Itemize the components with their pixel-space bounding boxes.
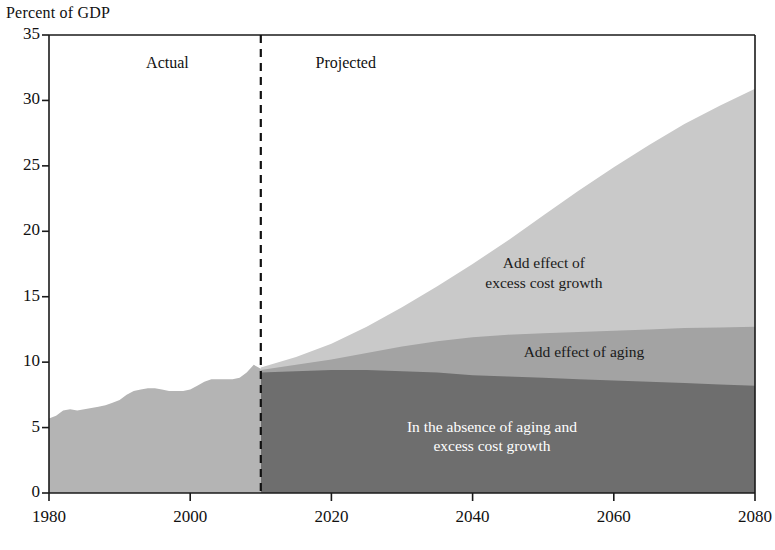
area-historical [49, 365, 261, 493]
y-axis-tick-label: 35 [2, 24, 40, 44]
x-axis-tick-label: 2020 [291, 507, 371, 527]
x-axis-tick-label: 2040 [433, 507, 513, 527]
annotation-line: excess cost growth [485, 273, 602, 292]
period-label-projected: Projected [316, 54, 376, 72]
annotation-1: Add effect of aging [524, 342, 645, 361]
y-axis-tick-label: 25 [2, 155, 40, 175]
annotation-line: excess cost growth [407, 436, 577, 455]
annotation-0: Add effect ofexcess cost growth [485, 253, 602, 292]
area-series-group [49, 89, 755, 493]
x-axis-tick-label: 1980 [9, 507, 89, 527]
x-axis-tick-label: 2000 [150, 507, 230, 527]
y-axis-tick-label: 20 [2, 220, 40, 240]
x-axis-tick-label: 2060 [574, 507, 654, 527]
annotation-line: Add effect of aging [524, 342, 645, 361]
chart-svg [0, 0, 775, 550]
annotation-line: In the absence of aging and [407, 417, 577, 436]
x-axis-tick-label: 2080 [715, 507, 775, 527]
plot-area [0, 0, 775, 550]
y-axis-tick-label: 5 [2, 417, 40, 437]
period-label-actual: Actual [146, 54, 189, 72]
y-axis-tick-label: 15 [2, 286, 40, 306]
y-axis-tick-label: 0 [2, 482, 40, 502]
annotation-2: In the absence of aging andexcess cost g… [407, 417, 577, 456]
chart-root: Percent of GDP 05101520253035 1980200020… [0, 0, 775, 550]
annotation-line: Add effect of [485, 253, 602, 272]
y-axis-tick-label: 30 [2, 89, 40, 109]
y-axis-tick-label: 10 [2, 351, 40, 371]
